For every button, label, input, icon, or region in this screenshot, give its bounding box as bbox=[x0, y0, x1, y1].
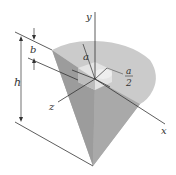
h-label: h bbox=[14, 76, 21, 89]
a-label: a bbox=[83, 51, 89, 62]
b-label: b bbox=[30, 44, 36, 55]
cone-diagram: y x z a a 2 b h bbox=[0, 0, 176, 175]
z-axis-label: z bbox=[48, 101, 55, 112]
y-axis-label: y bbox=[85, 11, 92, 22]
x-axis-label: x bbox=[161, 125, 167, 136]
a-half-numerator: a bbox=[126, 66, 131, 76]
a-half-denominator: 2 bbox=[125, 78, 132, 88]
h-arrow-top-icon bbox=[19, 36, 23, 41]
h-arrow-bottom-icon bbox=[19, 117, 23, 122]
b-arrow-bottom-icon bbox=[32, 58, 36, 63]
b-arrow-top-icon bbox=[32, 35, 36, 40]
